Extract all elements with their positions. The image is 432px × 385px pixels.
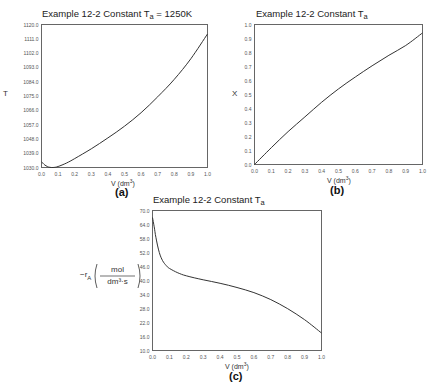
chart-panel-c: Example 12-2 Constant Ta −rA mol dm³·s 7… — [0, 0, 432, 385]
plot-area-c — [0, 0, 432, 385]
data-line-c — [153, 218, 322, 334]
plot-frame-c — [153, 211, 322, 351]
